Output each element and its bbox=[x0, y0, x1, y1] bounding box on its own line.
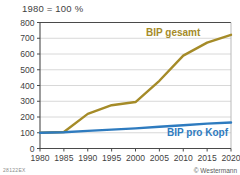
gridlines-group bbox=[40, 38, 231, 133]
x-tick-label: 2020 bbox=[221, 153, 240, 163]
x-tick-label: 1980 bbox=[30, 153, 49, 163]
x-tick-label: 1995 bbox=[102, 153, 121, 163]
x-tick-label: 2015 bbox=[198, 153, 217, 163]
chart-canvas: 0100200300400500600700800 19801985199019… bbox=[0, 0, 240, 175]
x-tick-label: 2010 bbox=[174, 153, 193, 163]
y-tick-label: 300 bbox=[20, 96, 35, 106]
y-tick-label: 400 bbox=[20, 81, 35, 91]
y-tick-label: 500 bbox=[20, 65, 35, 75]
x-tick-label: 2005 bbox=[150, 153, 169, 163]
y-tick-label: 800 bbox=[20, 18, 35, 28]
x-tick-label: 1985 bbox=[54, 153, 73, 163]
y-axis-ticks: 0100200300400500600700800 bbox=[20, 18, 40, 154]
data-series-group bbox=[40, 35, 231, 133]
copyright-credit: © Westermann bbox=[194, 167, 237, 174]
chart-figure: 1980 = 100 % 0100200300400500600700800 1… bbox=[0, 0, 240, 175]
series-line bbox=[40, 35, 231, 133]
y-tick-label: 100 bbox=[20, 128, 35, 138]
y-tick-label: 200 bbox=[20, 112, 35, 122]
series-label-bip-pro-kopf: BIP pro Kopf bbox=[167, 127, 229, 138]
reference-code: 28122EX bbox=[3, 167, 26, 173]
series-label-bip-gesamt: BIP gesamt bbox=[146, 27, 201, 38]
x-tick-label: 1990 bbox=[78, 153, 97, 163]
x-axis-ticks: 198019851990199520002005201020152020 bbox=[30, 149, 240, 163]
y-tick-label: 600 bbox=[20, 49, 35, 59]
x-tick-label: 2000 bbox=[126, 153, 145, 163]
y-tick-label: 700 bbox=[20, 33, 35, 43]
